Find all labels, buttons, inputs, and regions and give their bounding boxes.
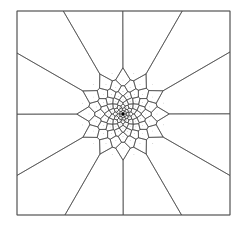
voronoi-sites: [82, 73, 164, 155]
site-dot: [149, 121, 150, 122]
voronoi-cell: [123, 147, 181, 215]
site-dot: [123, 111, 124, 112]
site-dot: [134, 94, 135, 95]
site-dot: [119, 107, 120, 108]
site-dot: [121, 113, 122, 114]
voronoi-cell: [134, 110, 141, 117]
site-dot: [133, 73, 134, 74]
site-dot: [130, 126, 131, 127]
site-dot: [130, 121, 131, 122]
site-dot: [82, 103, 83, 104]
site-dot: [120, 124, 121, 125]
site-dot: [152, 84, 153, 85]
site-dot: [133, 111, 134, 112]
site-dot: [124, 109, 125, 110]
voronoi-cell: [119, 96, 126, 103]
site-dot: [111, 94, 112, 95]
site-dot: [120, 110, 121, 111]
site-dot: [136, 127, 137, 128]
site-dot: [110, 121, 111, 122]
site-dot: [152, 143, 153, 144]
voronoi-cell: [139, 99, 149, 107]
voronoi-cell: [83, 91, 99, 104]
site-dot: [142, 102, 143, 103]
site-dot: [140, 84, 141, 85]
site-dot: [116, 110, 117, 111]
site-dot: [103, 102, 104, 103]
voronoi-cell: [139, 121, 149, 129]
site-dot: [137, 114, 138, 115]
site-dot: [100, 114, 101, 115]
site-dot: [108, 114, 109, 115]
site-dot: [125, 124, 126, 125]
site-dot: [105, 118, 106, 119]
site-dot: [123, 136, 124, 137]
site-dot: [116, 140, 117, 141]
voronoi-cell: [118, 132, 128, 142]
site-dot: [112, 116, 113, 117]
site-dot: [116, 101, 117, 102]
site-dot: [103, 133, 104, 134]
site-dot: [126, 111, 127, 112]
site-dot: [142, 94, 143, 95]
site-dot: [140, 143, 141, 144]
site-dot: [125, 113, 126, 114]
site-dot: [152, 131, 153, 132]
site-dot: [118, 115, 119, 116]
site-dot: [127, 131, 128, 132]
site-dot: [110, 107, 111, 108]
site-dot: [145, 114, 146, 115]
voronoi-cell: [17, 53, 90, 114]
site-dot: [93, 143, 94, 144]
site-dot: [142, 125, 143, 126]
site-dot: [93, 97, 94, 98]
voronoi-cell: [141, 109, 151, 119]
site-dot: [130, 101, 131, 102]
site-dot: [125, 103, 126, 104]
site-dot: [82, 125, 83, 126]
voronoi-cell: [147, 91, 163, 104]
site-dot: [140, 109, 141, 110]
site-dot: [129, 117, 130, 118]
site-dot: [116, 126, 117, 127]
voronoi-cell: [83, 125, 99, 138]
site-dot: [93, 131, 94, 132]
site-dot: [120, 103, 121, 104]
site-dot: [115, 87, 116, 88]
voronoi-cell: [108, 130, 116, 140]
site-dot: [119, 120, 120, 121]
site-dot: [103, 125, 104, 126]
site-dot: [126, 107, 127, 108]
voronoi-cell: [100, 138, 113, 154]
voronoi-cell: [147, 125, 163, 138]
site-dot: [103, 94, 104, 95]
voronoi-cell: [123, 11, 182, 81]
site-dot: [123, 116, 124, 117]
site-dot: [127, 96, 128, 97]
voronoi-cell: [119, 125, 126, 132]
site-dot: [140, 118, 141, 119]
site-dot: [126, 120, 127, 121]
site-dot: [110, 127, 111, 128]
site-dot: [129, 110, 130, 111]
site-dot: [120, 118, 121, 119]
voronoi-cell: [156, 114, 230, 176]
voronoi-cell: [17, 114, 90, 175]
site-dot: [163, 124, 164, 125]
site-dot: [89, 114, 90, 115]
site-dot: [134, 154, 135, 155]
site-dot: [118, 112, 119, 113]
center-site-dot: [122, 113, 125, 116]
site-dot: [118, 131, 119, 132]
voronoi-cell: [98, 99, 108, 107]
site-dot: [123, 99, 124, 100]
site-dot: [125, 115, 126, 116]
voronoi-cell: [118, 86, 128, 96]
voronoi-cell: [100, 74, 113, 90]
site-dot: [130, 114, 131, 115]
voronoi-cell: [105, 110, 112, 117]
voronoi-cell: [108, 89, 116, 99]
site-dot: [96, 121, 97, 122]
site-dot: [105, 109, 106, 110]
site-dot: [130, 106, 131, 107]
